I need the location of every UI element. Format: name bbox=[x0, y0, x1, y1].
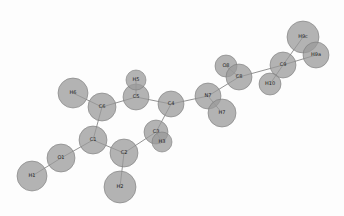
atom-label: C9 bbox=[280, 61, 287, 67]
atom-label: C5 bbox=[133, 93, 140, 99]
atom-o1[interactable]: O1 bbox=[47, 144, 75, 172]
atom-c6[interactable]: C6 bbox=[88, 93, 116, 121]
atom-c2[interactable]: C2 bbox=[110, 139, 138, 167]
atom-label: C6 bbox=[99, 103, 106, 109]
atom-label: H3 bbox=[159, 138, 166, 144]
molecule-canvas: H1O1C1C2H2C6H6C5H5C4C3H3N7H7O8C8C9H10H9c… bbox=[0, 0, 344, 216]
atom-label: C4 bbox=[168, 100, 175, 106]
atom-c1[interactable]: C1 bbox=[79, 126, 107, 154]
atom-label: H1 bbox=[29, 172, 36, 178]
atom-label: H7 bbox=[219, 109, 226, 115]
atom-c4[interactable]: C4 bbox=[158, 91, 184, 117]
atom-label: O1 bbox=[57, 154, 64, 160]
atom-h7[interactable]: H7 bbox=[208, 99, 236, 127]
atom-layer: H1O1C1C2H2C6H6C5H5C4C3H3N7H7O8C8C9H10H9c… bbox=[17, 21, 329, 203]
atom-label: H6 bbox=[70, 89, 77, 95]
atom-label: H9c bbox=[298, 33, 308, 39]
atom-h2[interactable]: H2 bbox=[104, 171, 136, 203]
atom-label: H5 bbox=[133, 76, 140, 82]
atom-h6[interactable]: H6 bbox=[58, 78, 88, 108]
atom-label: H9a bbox=[311, 51, 321, 57]
molecule-diagram: H1O1C1C2H2C6H6C5H5C4C3H3N7H7O8C8C9H10H9c… bbox=[0, 0, 344, 216]
atom-h9a[interactable]: H9a bbox=[303, 42, 329, 68]
atom-h5[interactable]: H5 bbox=[126, 70, 146, 90]
atom-label: N7 bbox=[205, 92, 212, 98]
atom-h3[interactable]: H3 bbox=[152, 132, 172, 152]
atom-label: O8 bbox=[222, 62, 229, 68]
atom-h1[interactable]: H1 bbox=[17, 161, 47, 191]
atom-c8[interactable]: C8 bbox=[226, 64, 252, 90]
atom-label: H10 bbox=[265, 80, 275, 86]
atom-label: C2 bbox=[121, 149, 128, 155]
atom-label: H2 bbox=[117, 183, 124, 189]
atom-label: C1 bbox=[90, 136, 97, 142]
atom-h10[interactable]: H10 bbox=[259, 73, 281, 95]
atom-label: C8 bbox=[236, 73, 243, 79]
